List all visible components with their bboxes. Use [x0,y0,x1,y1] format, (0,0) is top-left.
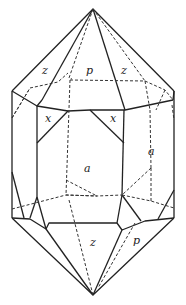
label-z-upper-right: z [120,64,127,77]
label-p-lower: p [133,234,140,247]
lower-pyramid-edges [12,218,174,295]
label-a-right: a [148,145,155,158]
crystal-figure: z p z x x a a z p [0,0,186,305]
label-z-lower: z [89,236,96,249]
lower-ring-edges [12,172,174,230]
label-z-upper-left: z [41,64,48,77]
crystal-diagram: z p z x x a a z p [0,0,186,305]
upper-pyramid-edges [12,9,174,110]
face-labels: z p z x x a a z p [41,64,155,249]
label-x-right: x [110,112,117,125]
label-p-upper: p [86,64,93,77]
label-a-center: a [84,162,91,175]
label-x-left: x [45,112,52,125]
